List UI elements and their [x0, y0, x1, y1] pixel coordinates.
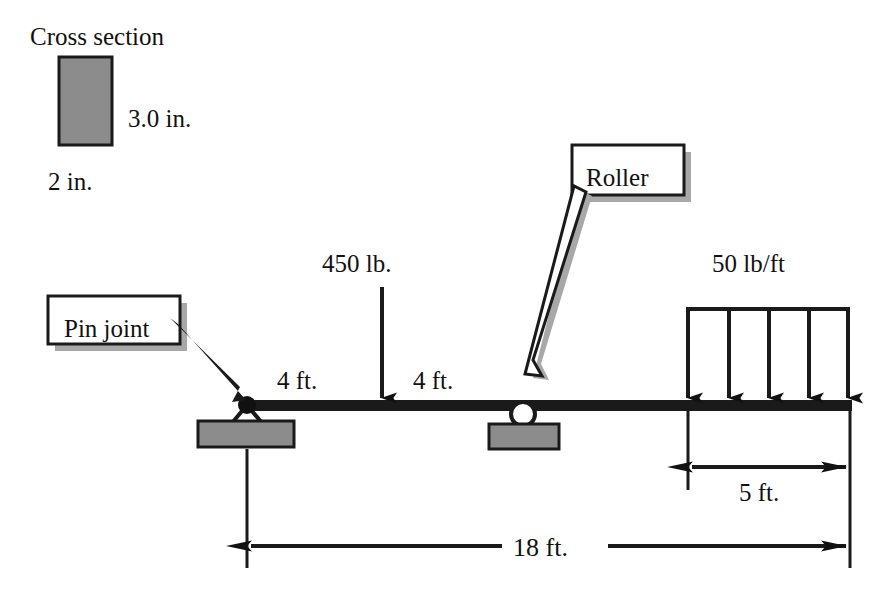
pin-joint-callout[interactable]: [48, 296, 246, 402]
beam-diagram-svg: Cross section 3.0 in. 2 in. Pin joint Ro…: [0, 0, 893, 603]
cross-section-width-label: 2 in.: [48, 168, 92, 195]
roller-pointer-arrow-shadow: [533, 190, 592, 380]
beam-diagram: Cross section 3.0 in. 2 in. Pin joint Ro…: [0, 0, 893, 603]
beam-member: [240, 400, 852, 411]
roller-pointer-arrow: [525, 186, 586, 376]
dimension-left-span-label: 4 ft.: [277, 367, 317, 394]
cross-section-height-label: 3.0 in.: [128, 105, 191, 132]
dimension-18ft-label: 18 ft.: [513, 533, 568, 562]
point-load-label: 450 lb.: [322, 250, 391, 277]
beam-group: [240, 400, 852, 411]
pin-joint-label: Pin joint: [64, 315, 149, 342]
distributed-load-label: 50 lb/ft: [712, 250, 785, 277]
cross-section-title: Cross section: [30, 23, 165, 50]
cross-section-group: [59, 57, 112, 145]
roller-circle: [511, 402, 535, 426]
dimension-5ft-label: 5 ft.: [739, 479, 779, 506]
pin-support-base-plate: [198, 421, 294, 447]
roller-label: Roller: [586, 164, 649, 191]
distributed-load-group: [686, 309, 850, 398]
roller-base-plate: [489, 424, 559, 449]
cross-section-rect: [59, 57, 112, 145]
dimension-right-span-label: 4 ft.: [413, 367, 453, 394]
